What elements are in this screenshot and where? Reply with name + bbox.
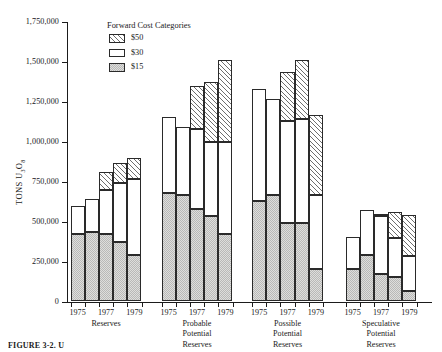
- y-axis-tick-mark: [62, 182, 67, 183]
- bar-segment-s15: [388, 277, 402, 302]
- stacked-bar: [162, 117, 176, 301]
- stacked-bar: [204, 82, 218, 302]
- x-axis-tick-mark: [142, 303, 143, 307]
- bar-segment-s15: [218, 234, 232, 301]
- bar-segment-s30: [346, 237, 360, 269]
- stacked-bar: [309, 115, 323, 301]
- x-axis-tick-label: 1979: [120, 308, 148, 317]
- x-axis-line: [67, 302, 433, 303]
- bar-segment-s50: [190, 86, 204, 129]
- x-axis-tick-mark: [99, 303, 100, 307]
- stacked-bar: [127, 158, 141, 302]
- bar-segment-s30: [204, 142, 218, 216]
- y-axis-tick-label: 1,000,000: [0, 137, 59, 146]
- y-axis-tick-label: 250,000: [0, 257, 59, 266]
- legend-entry: $50: [109, 34, 219, 43]
- figure-caption: FIGURE 3-2. U: [8, 341, 438, 352]
- y-axis-tick-mark: [62, 222, 67, 223]
- group-label-line: Potential: [157, 329, 237, 339]
- bar-segment-s30: [360, 210, 374, 256]
- legend-swatch-s30: [109, 49, 125, 58]
- group-label-line: Possible: [248, 319, 328, 329]
- x-axis-tick-mark: [360, 303, 361, 307]
- bar-segment-s50: [388, 212, 402, 238]
- x-axis-tick-label: 1977: [274, 308, 302, 317]
- x-axis-tick-label: 1979: [395, 308, 423, 317]
- bar-segment-s50: [309, 115, 323, 195]
- stacked-bar: [252, 89, 266, 301]
- bar-segment-s15: [280, 223, 294, 301]
- x-axis-tick-mark: [402, 303, 403, 307]
- bar-segment-s50: [295, 60, 309, 119]
- stacked-bar: [402, 215, 416, 301]
- bar-segment-s15: [266, 195, 280, 301]
- bar-segment-s15: [190, 209, 204, 302]
- y-axis-tick-label: 500,000: [0, 217, 59, 226]
- y-axis-tick-label: 750,000: [0, 177, 59, 186]
- bar-segment-s15: [309, 269, 323, 302]
- bar-segment-s30: [71, 206, 85, 235]
- y-axis-tick-label: 1,250,000: [0, 97, 59, 106]
- uranium-reserves-stacked-bar-chart: TONS U3O8 0250,000500,000750,0001,000,00…: [0, 0, 442, 352]
- stacked-bar: [295, 60, 309, 301]
- bar-segment-s15: [99, 234, 113, 301]
- x-axis-tick-mark: [127, 303, 128, 307]
- y-axis-tick-mark: [62, 262, 67, 263]
- legend-title: Forward Cost Categories: [107, 21, 191, 30]
- group-label-line: Probable: [157, 319, 237, 329]
- legend-swatch-s50: [109, 34, 125, 43]
- bar-segment-s30: [388, 238, 402, 277]
- x-axis-tick-mark: [388, 303, 389, 307]
- x-axis-tick-label: 1975: [339, 308, 367, 317]
- x-axis-tick-mark: [71, 303, 72, 307]
- bar-segment-s15: [252, 201, 266, 302]
- bar-segment-s30: [295, 119, 309, 223]
- y-axis-tick-mark: [62, 142, 67, 143]
- bar-segment-s15: [71, 234, 85, 301]
- stacked-bar: [176, 127, 190, 301]
- legend-swatch-s15: [109, 63, 125, 72]
- x-axis-tick-mark: [295, 303, 296, 307]
- bar-segment-s30: [190, 129, 204, 209]
- bar-segment-s15: [127, 255, 141, 301]
- bar-segment-s15: [176, 195, 190, 301]
- legend-entry: $15: [109, 63, 219, 72]
- stacked-bar: [374, 214, 388, 302]
- group-label-line: Potential: [341, 329, 421, 339]
- x-axis-tick-mark: [218, 303, 219, 307]
- y-axis-tick-mark: [62, 22, 67, 23]
- stacked-bar: [99, 172, 113, 301]
- bar-segment-s15: [346, 269, 360, 302]
- bar-segment-s50: [113, 163, 127, 184]
- x-axis-tick-label: 1977: [367, 308, 395, 317]
- bar-segment-s30: [99, 190, 113, 235]
- legend-entry: $30: [109, 49, 219, 58]
- bar-segment-s30: [162, 117, 176, 193]
- group-label-line: Potential: [248, 329, 328, 339]
- bar-segment-s15: [295, 223, 309, 301]
- bar-segment-s50: [374, 214, 388, 216]
- x-axis-tick-mark: [417, 303, 418, 307]
- stacked-bar: [113, 163, 127, 302]
- group-label-line: Speculative: [341, 319, 421, 329]
- bar-segment-s30: [280, 121, 294, 223]
- bar-segment-s15: [360, 255, 374, 301]
- x-axis-tick-label: 1977: [183, 308, 211, 317]
- x-axis-tick-mark: [162, 303, 163, 307]
- y-axis-tick-label: 1,750,000: [0, 17, 59, 26]
- y-axis-tick-mark: [62, 102, 67, 103]
- bar-segment-s30: [402, 256, 416, 291]
- bar-segment-s30: [218, 142, 232, 235]
- bar-segment-s30: [85, 199, 99, 232]
- stacked-bar: [218, 60, 232, 301]
- bar-segment-s30: [252, 89, 266, 201]
- legend-label: $50: [131, 33, 143, 42]
- x-axis-tick-label: 1975: [155, 308, 183, 317]
- x-axis-tick-mark: [204, 303, 205, 307]
- x-axis-tick-mark: [252, 303, 253, 307]
- x-axis-tick-mark: [280, 303, 281, 307]
- legend-label: $15: [131, 62, 143, 71]
- y-axis-tick-label: 0: [0, 297, 59, 306]
- x-axis-tick-mark: [85, 303, 86, 307]
- x-axis-tick-mark: [346, 303, 347, 307]
